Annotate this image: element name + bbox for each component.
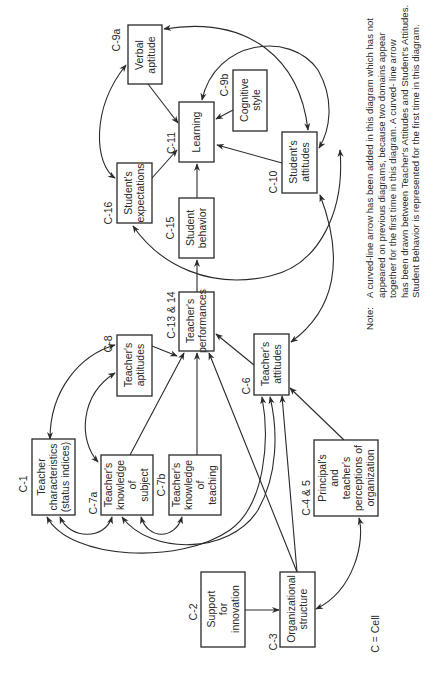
cell-id: C-2	[187, 603, 199, 620]
edge-c8-to-c1314	[152, 346, 177, 356]
node-label-line: attitudes	[299, 142, 311, 182]
node-label-line: for	[217, 602, 229, 615]
node-cognitive-style: Cognitive style C-9b	[218, 70, 267, 131]
node-label-line: Organizational	[285, 575, 297, 643]
node-teachers-performances: Teacher's performances C-13 & 14	[165, 289, 214, 353]
node-label-line: Principal's	[316, 454, 328, 502]
node-teacher-characteristics: Teacher characteristics (status indices)…	[17, 439, 75, 515]
node-teachers-knowledge-of-subject: Teacher's knowledge of subject C-7a	[87, 455, 153, 515]
curve-c6-c10	[291, 195, 333, 342]
node-label-line: knowledge	[114, 460, 126, 510]
node-label-line: attitudes	[271, 344, 283, 384]
node-student-behavior: Student behavior C-15	[164, 198, 214, 258]
node-label-line: Support	[205, 591, 217, 628]
node-label-line: knowledge	[182, 460, 194, 510]
curve-c9a-c16	[99, 65, 126, 178]
node-principals-and-teachers-perceptions: Principal's and teacher's perceptions of…	[300, 440, 378, 516]
edge-c9a-to-c11	[148, 84, 178, 123]
node-label-line: Teacher	[35, 458, 47, 496]
node-label-line: style	[250, 89, 262, 111]
cell-id: C-7a	[87, 491, 99, 514]
edge-c6-to-c1314	[216, 334, 254, 365]
cell-id: C-13 & 14	[165, 291, 177, 338]
edge-c45-to-c6	[290, 388, 344, 440]
node-teachers-aptitudes: Teacher's aptitudes C-8	[102, 335, 152, 396]
cell-id: C-9a	[110, 28, 122, 51]
node-students-attitudes: Student's attitudes C-10	[267, 132, 317, 193]
note-block: Note: A curved-line arrow has been added…	[364, 5, 421, 330]
cell-id: C-11	[165, 132, 177, 154]
cell-id: C-16	[102, 201, 114, 224]
node-label-line: Teacher's	[170, 463, 182, 508]
node-learning: Learning C-11	[165, 102, 214, 162]
node-label-line: Student's	[122, 171, 134, 214]
node-label-line: and	[328, 469, 340, 487]
curve-c1-c7a	[60, 517, 112, 534]
cell-id: C-3	[267, 633, 279, 650]
node-label-line: innovation	[229, 585, 241, 633]
edge-c10-to-c11	[217, 145, 282, 163]
legend: C = Cell	[369, 615, 381, 653]
cell-id: C-9b	[218, 73, 230, 96]
node-label-line: Teacher's	[102, 463, 114, 508]
cell-id: C-1	[17, 475, 29, 492]
node-label-line: characteristics	[47, 443, 59, 510]
edge-c3-to-c6	[282, 396, 297, 572]
node-label-line: perceptions of	[352, 445, 364, 511]
node-label-line: organization	[364, 449, 376, 506]
node-label-line: Learning	[190, 111, 202, 152]
node-label-line: structure	[297, 588, 309, 629]
node-label-line: behavior	[196, 207, 208, 248]
node-label-line: Teacher's	[259, 342, 271, 387]
node-verbal-aptitude: Verbal aptitude C-9a	[110, 25, 162, 84]
node-label-line: aptitude	[145, 36, 157, 74]
node-label-line: teaching	[206, 465, 218, 505]
legend-text: C = Cell	[369, 615, 381, 653]
node-organizational-structure: Organizational structure C-3	[267, 572, 315, 650]
node-support-for-innovation: Support for innovation C-2	[187, 572, 245, 647]
cell-id: C-6	[240, 377, 252, 394]
node-label-line: Cognitive	[238, 78, 250, 122]
cell-id: C-7b	[155, 473, 167, 496]
note-line: A curved-line arrow has been added in th…	[364, 18, 375, 298]
curve-c7a-c7b	[141, 517, 182, 534]
node-label-line: teacher's	[340, 457, 352, 499]
note-line: together for the first time in this diag…	[387, 39, 398, 298]
node-label-line: of	[194, 481, 206, 490]
node-label-line: Teacher's	[184, 299, 196, 344]
edge-c9b-to-c11	[216, 110, 233, 119]
note-label: Note:	[364, 307, 375, 330]
node-label-line: Teacher's	[122, 343, 134, 388]
node-label-line: expectations	[134, 164, 146, 223]
node-teachers-knowledge-of-teaching: Teacher's knowledge of teaching C-7b	[155, 455, 221, 515]
node-label-line: (status indices)	[59, 442, 71, 513]
node-label-line: subject	[138, 468, 150, 501]
cell-id: C-8	[102, 335, 114, 352]
cell-id: C-10	[267, 170, 279, 193]
note-line: Student Behavior is represented for the …	[410, 24, 421, 298]
node-label-line: performances	[196, 289, 208, 353]
curve-c1-c8	[50, 345, 115, 439]
curve-c7a-c8	[85, 373, 115, 462]
curve-c3-c45	[316, 518, 361, 609]
note-line: has been drawn between Teacher's Attitud…	[399, 5, 410, 298]
node-teachers-attitudes: Teacher's attitudes C-6	[240, 334, 289, 395]
node-label-line: Student	[184, 210, 196, 246]
node-label-line: of	[126, 481, 138, 490]
note-line: appeared on previous diagrams, because t…	[376, 32, 387, 298]
cell-id: C-15	[164, 216, 176, 239]
node-label-line: Verbal	[133, 40, 145, 70]
cell-id: C-4 & 5	[300, 480, 312, 516]
causal-model-diagram: Verbal aptitude C-9a Learning C-11 Cogni…	[0, 0, 438, 675]
node-label-line: aptitudes	[134, 344, 146, 387]
node-label-line: Student's	[287, 140, 299, 183]
